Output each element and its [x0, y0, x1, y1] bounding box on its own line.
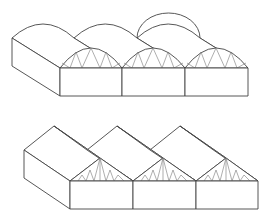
- arched-front-gables: [60, 48, 248, 68]
- gable-greenhouse: [24, 126, 258, 209]
- gable-front-walls: [70, 181, 258, 209]
- arched-greenhouse: [12, 13, 248, 96]
- greenhouse-diagrams: [0, 0, 271, 221]
- arched-front-walls: [60, 68, 248, 96]
